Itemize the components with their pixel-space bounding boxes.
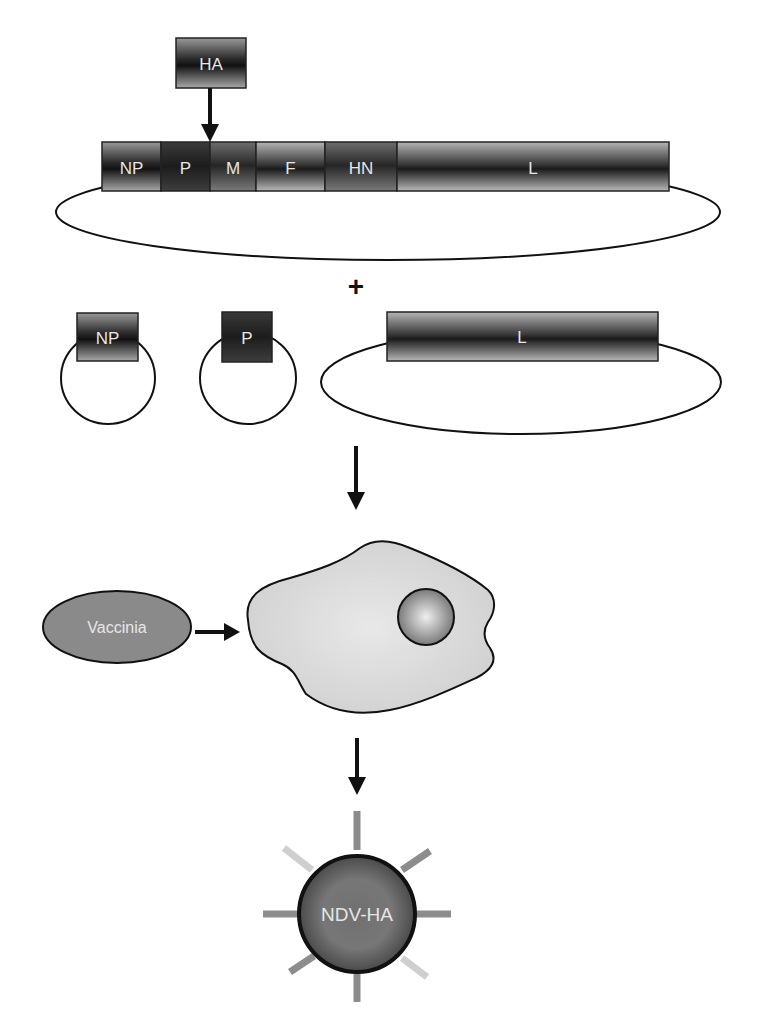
segment-hn: HN [325, 142, 397, 191]
plus-sign: + [348, 271, 364, 302]
ndv-ha-label: NDV-HA [321, 904, 393, 925]
ha-insert-label: HA [199, 55, 223, 74]
segment-np-label: NP [120, 159, 144, 178]
helper-plasmid-np: NP [61, 313, 155, 424]
segment-hn-label: HN [349, 159, 374, 178]
segment-m: M [210, 142, 256, 191]
vaccinia-label: Vaccinia [87, 619, 146, 636]
helper-p-label: P [241, 329, 252, 348]
genome-segment-bar: NP P M F HN L [102, 142, 669, 191]
infection-arrow-icon [195, 623, 240, 641]
helper-np-label: NP [96, 329, 120, 348]
segment-np: NP [102, 142, 161, 191]
down-arrow-icon-2 [348, 738, 366, 795]
down-arrow-icon [347, 446, 365, 510]
segment-m-label: M [226, 159, 240, 178]
ha-insert: HA [176, 38, 246, 88]
segment-l-label: L [528, 159, 537, 178]
ndv-ha-virion: NDV-HA [263, 811, 451, 1002]
segment-p-label: P [180, 159, 191, 178]
genome-plasmid: NP P M F HN L [56, 38, 720, 260]
helper-l-label: L [517, 328, 526, 347]
host-cell [247, 541, 494, 712]
insert-arrow-icon [201, 88, 219, 142]
segment-f-label: F [285, 159, 295, 178]
segment-l: L [397, 142, 669, 191]
ndv-ha-rescue-diagram: NP P M F HN L [0, 0, 759, 1034]
helper-plasmid-l: L [321, 312, 721, 434]
segment-p: P [161, 142, 210, 191]
cell-nucleus [398, 589, 454, 645]
vaccinia-helper-virus: Vaccinia [43, 591, 191, 663]
segment-f: F [256, 142, 325, 191]
helper-plasmid-p: P [200, 312, 296, 424]
